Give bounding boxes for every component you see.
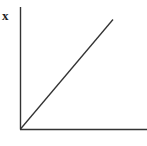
diagonal-line	[21, 20, 114, 130]
y-axis-label: x	[2, 8, 9, 23]
linear-graph-diagram: x	[0, 0, 147, 146]
